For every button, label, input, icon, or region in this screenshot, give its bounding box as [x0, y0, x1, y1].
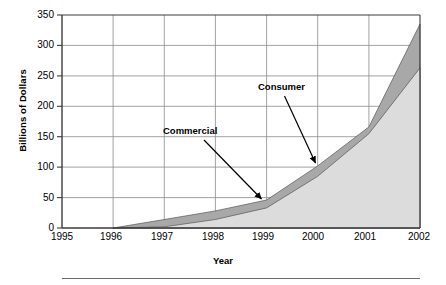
annotation-consumer: Consumer — [258, 81, 305, 92]
chart-figure: Billions of Dollars 350 300 250 200 150 … — [0, 0, 446, 285]
bottom-divider — [62, 278, 420, 279]
plot-area — [0, 0, 446, 285]
annotation-commercial: Commercial — [163, 125, 217, 136]
x-axis-title: Year — [0, 255, 446, 266]
y-tick-marks — [57, 15, 62, 228]
